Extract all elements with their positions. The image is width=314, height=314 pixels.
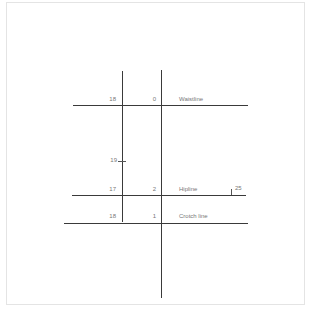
crotch-line-center-value: 1 bbox=[136, 213, 156, 220]
diagram-frame bbox=[6, 2, 305, 305]
waistline-center-value: 0 bbox=[136, 96, 156, 103]
hipline-center-value: 2 bbox=[136, 186, 156, 193]
hipline-right-value: 25 bbox=[235, 185, 242, 192]
left-tick-value: 19 bbox=[97, 157, 117, 164]
waistline-label: Waistline bbox=[179, 96, 203, 103]
hipline-right-tick bbox=[231, 189, 232, 195]
left-tick-mark bbox=[118, 161, 126, 162]
waistline-left-value: 18 bbox=[96, 96, 116, 103]
crotch-line-label: Crotch line bbox=[179, 213, 208, 220]
left-vertical-line bbox=[122, 71, 123, 222]
crotch-line-left-value: 18 bbox=[96, 213, 116, 220]
hipline-left-value: 17 bbox=[96, 186, 116, 193]
waistline bbox=[73, 105, 248, 106]
hipline-label: Hipline bbox=[179, 186, 197, 193]
hipline bbox=[72, 195, 246, 196]
crotch-line bbox=[64, 223, 248, 224]
